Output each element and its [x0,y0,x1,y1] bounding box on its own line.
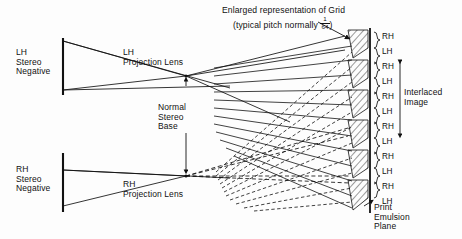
pair-label-rh-6: RH [382,182,394,191]
grid-slats [348,30,368,210]
pair-label-rh-1: RH [382,32,394,41]
grid-pitch-fraction: 164 [320,16,329,30]
pair-label-lh-6: LH [382,197,392,206]
rh-projection-lens-label: RH Projection Lens [123,180,183,199]
lh-lens-point [185,75,188,78]
pair-label-lh-1: LH [382,47,392,56]
grid-caption-line1: Enlarged representation of Grid [222,5,345,15]
rh-ray-fan-dashed [216,52,352,211]
grid-pitch-denominator: 64 [320,24,329,31]
grid-caption-suffix: ) [330,20,333,30]
pair-label-rh-3: RH [382,92,394,101]
grid-caption-line2: (typical pitch normally 164) [233,16,332,30]
pair-label-rh-2: RH [382,62,394,71]
pair-label-lh-2: LH [382,77,392,86]
print-emulsion-plane-label: Print Emulsion Plane [374,203,410,232]
rh-lens-point [185,175,188,178]
interlaced-image-label: Interlaced Image [404,88,442,107]
pair-label-rh-4: RH [382,122,394,131]
stereo-projection-diagram: Enlarged representation of Grid (typical… [0,0,462,239]
rh-stereo-negative-label: RH Stereo Negative [16,165,50,194]
pair-label-lh-4: LH [382,137,392,146]
pair-label-rh-5: RH [382,152,394,161]
normal-stereo-base-label: Normal Stereo Base [158,103,186,132]
lh-stereo-negative-label: LH Stereo Negative [16,48,50,77]
pair-label-lh-3: LH [382,107,392,116]
grid-caption-prefix: (typical pitch normally [233,20,320,30]
pair-braces [374,32,380,198]
lh-projection-lens-label: LH Projection Lens [123,48,183,67]
pair-label-lh-5: LH [382,167,392,176]
rh-lens-output-rays [186,128,350,183]
